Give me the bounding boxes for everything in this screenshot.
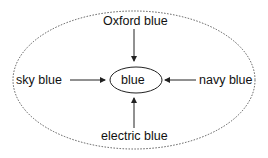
node-electric-blue: electric blue: [101, 130, 168, 143]
node-blue-center: blue: [121, 74, 145, 87]
node-oxford-blue: Oxford blue: [103, 15, 168, 28]
node-sky-blue: sky blue: [16, 74, 62, 87]
node-navy-blue: navy blue: [199, 74, 253, 87]
